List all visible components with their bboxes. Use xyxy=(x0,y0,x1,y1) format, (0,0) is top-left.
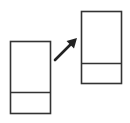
target-panel-frame xyxy=(82,12,122,84)
target-panel-icon xyxy=(82,12,122,84)
move-diagram xyxy=(0,0,130,123)
source-panel-icon xyxy=(11,42,51,114)
arrow-shaft xyxy=(55,44,71,60)
arrow-up-right-icon xyxy=(55,38,77,60)
source-panel-frame xyxy=(11,42,51,114)
